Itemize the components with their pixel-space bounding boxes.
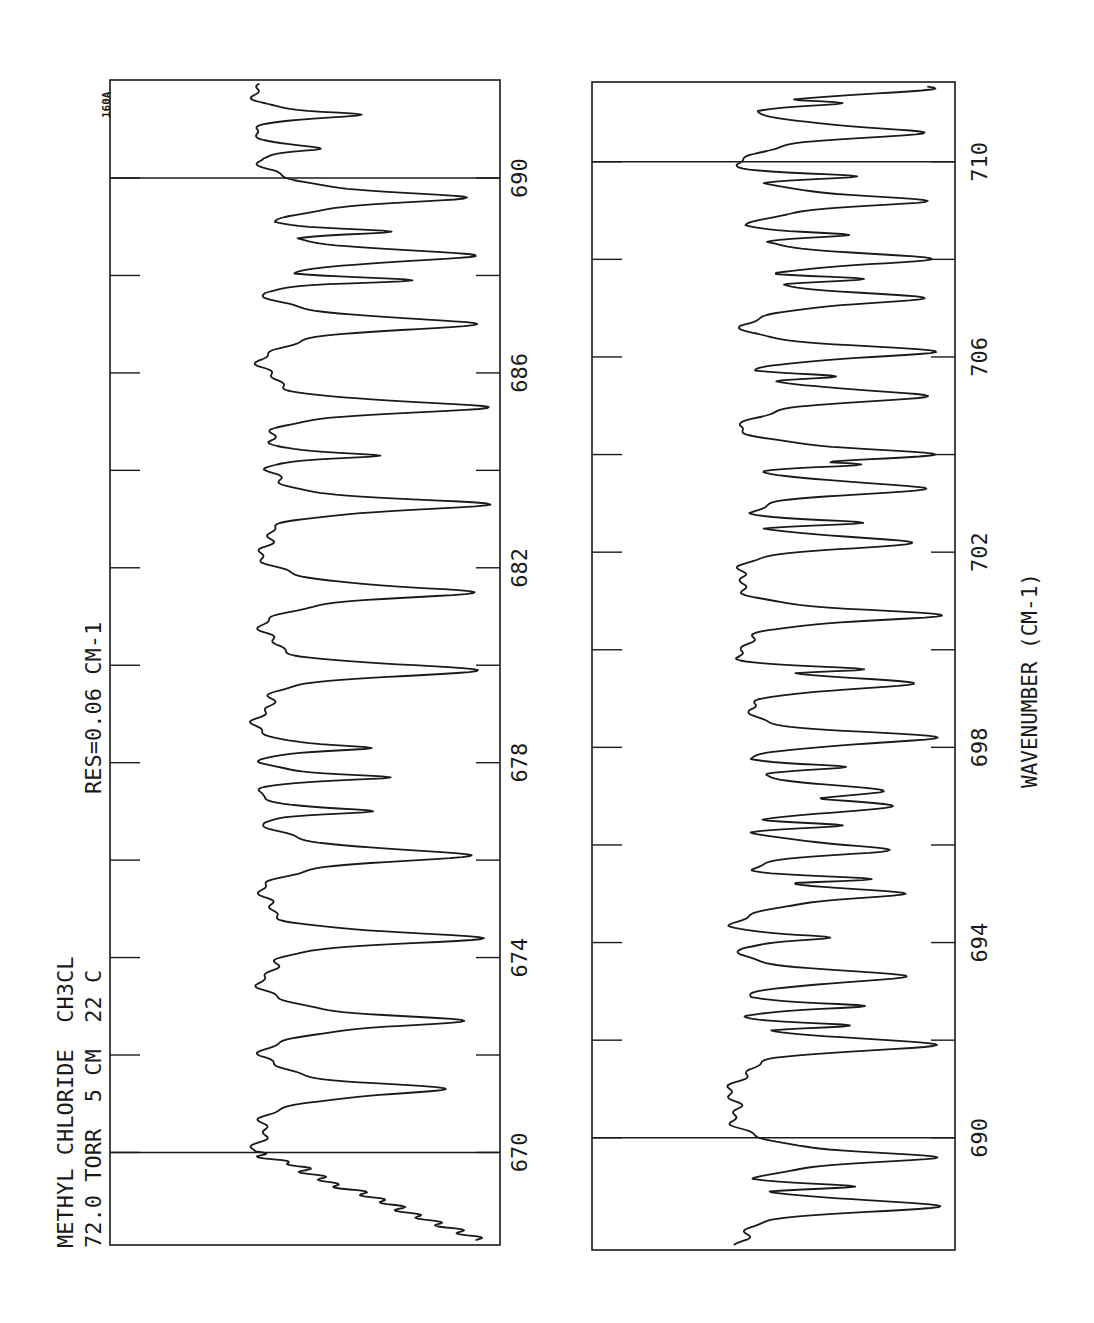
grid-lines (592, 162, 955, 1138)
tick-label: 690 (967, 1118, 992, 1158)
resolution-label: RES=0.06 CM-1 (81, 622, 106, 794)
tick-label: 702 (967, 532, 992, 572)
spectrum-trace (250, 84, 491, 1241)
tick-label: 678 (507, 743, 532, 783)
tick-label: 674 (507, 938, 532, 978)
tick-label: 694 (967, 923, 992, 963)
spectrum-figure: METHYL CHLORIDE CH3CL 72.0 TORR 5 CM 22 … (0, 0, 1094, 1323)
tick-label: 682 (507, 548, 532, 588)
tick-label: 690 (507, 158, 532, 198)
tick-label: 670 (507, 1133, 532, 1173)
axis-ticks (110, 178, 500, 1152)
title-block: METHYL CHLORIDE CH3CL 72.0 TORR 5 CM 22 … (53, 91, 1042, 1248)
spectrum-panel-bottom: 690694698702706710 (592, 82, 992, 1250)
tick-labels: 670674678682686690 (507, 158, 532, 1172)
panel-frame (592, 82, 955, 1250)
tick-label: 706 (967, 337, 992, 377)
panel-frame (110, 80, 500, 1245)
title-line-1: METHYL CHLORIDE CH3CL (53, 957, 78, 1248)
tick-label: 710 (967, 142, 992, 182)
tick-label: 698 (967, 727, 992, 767)
axis-ticks (592, 162, 955, 1138)
grid-lines (110, 178, 500, 1152)
x-axis-label: WAVENUMBER (CM-1) (1018, 573, 1042, 788)
spectrum-trace (727, 87, 942, 1246)
tick-label: 686 (507, 353, 532, 393)
corner-label: 160A (100, 91, 113, 118)
title-line-2: 72.0 TORR 5 CM 22 C (81, 970, 106, 1248)
spectrum-panel-top: 670674678682686690 (110, 80, 532, 1245)
tick-labels: 690694698702706710 (967, 142, 992, 1158)
